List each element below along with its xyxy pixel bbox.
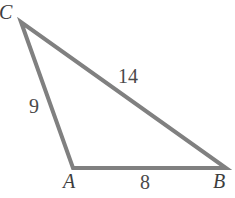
side-length-label-ca: 9 — [29, 96, 39, 116]
side-length-label-cb: 14 — [118, 66, 138, 86]
triangle-figure: C A B 9 14 8 — [0, 0, 235, 198]
vertex-label-a: A — [63, 171, 75, 191]
triangle-outline — [21, 22, 226, 168]
vertex-label-c: C — [0, 2, 12, 22]
side-length-label-ab: 8 — [140, 172, 150, 192]
vertex-label-b: B — [213, 171, 225, 191]
